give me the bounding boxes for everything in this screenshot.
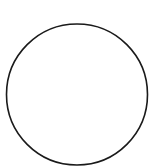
- diagram-canvas: [0, 0, 151, 168]
- circle-shape: [7, 24, 148, 165]
